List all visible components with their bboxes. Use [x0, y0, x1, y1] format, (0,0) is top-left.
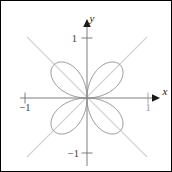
tick-label-x-positive-one: 1	[145, 102, 150, 113]
y-axis-label: y	[89, 12, 95, 24]
axes	[20, 19, 160, 166]
polar-rose-figure: y x 1 −1 −1 1	[0, 0, 172, 172]
x-axis-label: x	[162, 85, 168, 97]
tick-label-y-positive-one: 1	[72, 33, 77, 44]
x-axis-arrowhead	[152, 94, 160, 102]
plot-canvas: y x 1 −1 −1 1	[1, 1, 172, 172]
tick-label-x-negative-one: −1	[19, 102, 30, 113]
tick-label-y-negative-one: −1	[68, 148, 79, 159]
